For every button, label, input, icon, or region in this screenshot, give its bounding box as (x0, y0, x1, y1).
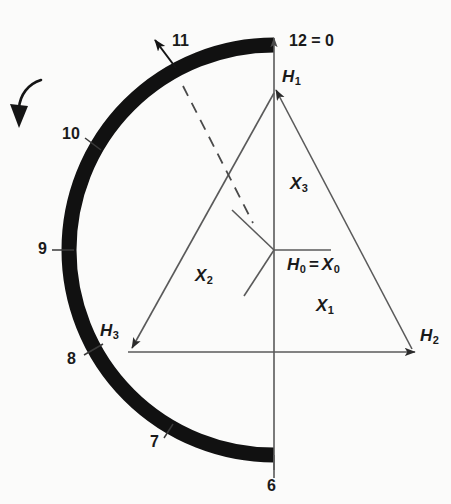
clock-label-6: 6 (267, 478, 276, 494)
clock-label-12: 12 = 0 (289, 33, 334, 49)
region-label-x2: X2 (195, 267, 213, 286)
vertex-label-h2: H2 (420, 327, 439, 346)
clock-label-7: 7 (150, 434, 159, 450)
clock-label-11: 11 (172, 33, 189, 49)
clock-arc (69, 45, 274, 455)
origin-label: H0=X0 (287, 256, 340, 275)
origin-marks (232, 210, 331, 296)
clock-label-10: 10 (62, 126, 80, 142)
dashed-radius (183, 86, 253, 223)
diagram-canvas: 12 = 0 11 10 9 8 7 6 H1 H2 H3 X1 X2 X3 H… (0, 0, 451, 504)
vertex-label-h1: H1 (282, 68, 301, 87)
region-label-x3: X3 (290, 175, 308, 194)
rotation-arrow-icon (10, 80, 41, 128)
vertex-label-h3: H3 (100, 322, 119, 341)
region-label-x1: X1 (316, 297, 334, 316)
clock-label-9: 9 (38, 241, 47, 257)
diagram-svg (0, 0, 451, 504)
triangle-edges (128, 90, 415, 352)
clock-label-8: 8 (67, 351, 76, 367)
